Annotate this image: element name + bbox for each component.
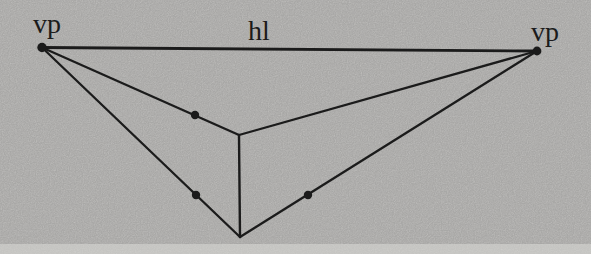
- scan-edge-artifact: [0, 244, 591, 254]
- vp-right-dot: [533, 47, 542, 56]
- vp-right-label: vp: [531, 16, 559, 47]
- vp-left-dot: [37, 43, 46, 52]
- vertical-corner-edge: [239, 135, 240, 237]
- marked-point-lower-right: [304, 191, 312, 199]
- vp-left-label: vp: [33, 8, 61, 39]
- paper-texture: [0, 0, 591, 254]
- marked-point-lower-left: [192, 191, 200, 199]
- perspective-diagram: vp hl vp: [0, 0, 591, 254]
- marked-point-upper-left: [191, 111, 199, 119]
- horizon-line-label: hl: [248, 15, 270, 46]
- scanned-page: vp hl vp: [0, 0, 591, 254]
